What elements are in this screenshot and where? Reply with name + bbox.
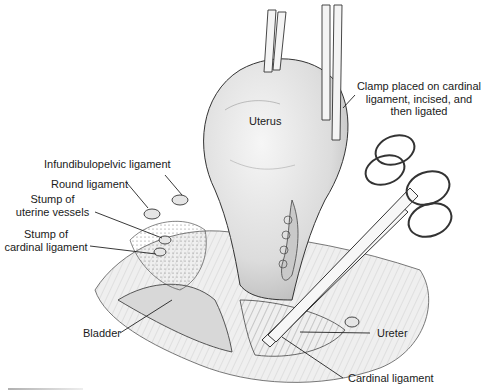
label-clamp: Clamp placed on cardinal ligament, incis… — [355, 80, 483, 118]
label-cardinal-ligament: Cardinal ligament — [348, 372, 434, 385]
label-bladder: Bladder — [83, 327, 121, 340]
label-uterus: Uterus — [249, 115, 281, 128]
label-round-ligament: Round ligament — [51, 178, 128, 191]
label-infundibulopelvic-ligament: Infundibulopelvic ligament — [44, 158, 171, 171]
label-stump-cardinal-ligament: Stump of cardinal ligament — [0, 228, 92, 253]
label-stump-uterine-vessels: Stump of uterine vessels — [10, 193, 95, 218]
label-ureter: Ureter — [377, 327, 408, 340]
